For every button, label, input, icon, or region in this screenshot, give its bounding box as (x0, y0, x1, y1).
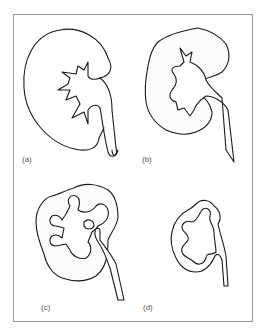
panel-label-c: (c) (41, 303, 50, 312)
panel-label-a: (a) (22, 155, 32, 164)
kidney-illustrations (0, 0, 264, 332)
panel-label-d: (d) (143, 303, 153, 312)
kidney-a (24, 29, 118, 156)
kidney-d (171, 200, 228, 286)
panel-label-b: (b) (142, 155, 152, 164)
kidney-b (145, 28, 234, 162)
kidney-c (36, 184, 124, 300)
